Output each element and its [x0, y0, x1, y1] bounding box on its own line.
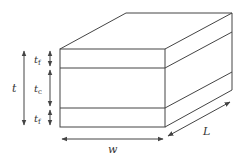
sandwich-panel-diagram: t tf tc tf w L — [0, 0, 245, 161]
length-label: L — [202, 125, 210, 138]
width-label: w — [108, 143, 118, 156]
total-thickness-label: t — [12, 82, 17, 95]
front-face — [60, 49, 165, 127]
box-outline — [60, 13, 232, 127]
length-arrow — [168, 102, 230, 136]
bottom-face-thickness-label: tf — [34, 113, 42, 126]
core-thickness-label: tc — [34, 83, 42, 96]
top-face-thickness-label: tf — [34, 54, 42, 67]
bottom-right-depth-edge — [165, 90, 232, 127]
top-right-depth-edge — [165, 13, 232, 49]
right-bottom-face-boundary — [165, 72, 232, 108]
right-top-face-boundary — [165, 32, 232, 68]
top-left-depth-edge — [60, 13, 126, 49]
